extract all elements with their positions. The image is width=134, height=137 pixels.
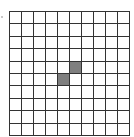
grid-cell	[10, 24, 22, 36]
grid-cell	[46, 62, 58, 74]
grid-cell	[58, 37, 70, 49]
shaded-grid-cell	[70, 62, 82, 74]
grid-cell	[106, 37, 118, 49]
grid-cell	[106, 86, 118, 98]
grid-cell	[34, 12, 46, 24]
grid-cell	[22, 74, 34, 86]
grid-cell	[70, 12, 82, 24]
grid-cell	[94, 99, 106, 111]
grid-cell	[94, 37, 106, 49]
grid-cell	[46, 99, 58, 111]
grid-cell	[70, 37, 82, 49]
grid-cell	[118, 99, 130, 111]
grid-cell	[94, 12, 106, 24]
grid-cell	[106, 74, 118, 86]
grid-cell	[22, 124, 34, 136]
grid-cell	[46, 111, 58, 123]
corner-mark	[1, 16, 3, 18]
grid-cell	[94, 24, 106, 36]
grid-cell	[58, 49, 70, 61]
grid-cell	[34, 99, 46, 111]
grid-cell	[82, 24, 94, 36]
square-grid	[9, 11, 130, 136]
grid-cell	[70, 74, 82, 86]
grid-cell	[58, 12, 70, 24]
grid-cell	[58, 86, 70, 98]
grid-cell	[22, 111, 34, 123]
grid-cell	[10, 74, 22, 86]
grid-cell	[34, 62, 46, 74]
grid-cell	[70, 49, 82, 61]
grid-cell	[70, 111, 82, 123]
grid-cell	[10, 37, 22, 49]
grid-cell	[82, 12, 94, 24]
grid-cell	[10, 124, 22, 136]
grid-cell	[58, 124, 70, 136]
grid-cell	[46, 86, 58, 98]
grid-cell	[34, 49, 46, 61]
grid-cell	[46, 12, 58, 24]
grid-cell	[94, 86, 106, 98]
grid-cell	[70, 24, 82, 36]
shaded-grid-cell	[58, 74, 70, 86]
grid-cell	[58, 111, 70, 123]
grid-cell	[22, 12, 34, 24]
grid-cell	[82, 49, 94, 61]
grid-cell	[118, 74, 130, 86]
grid-cell	[118, 86, 130, 98]
grid-cell	[118, 12, 130, 24]
grid-cell	[94, 74, 106, 86]
grid-cell	[106, 62, 118, 74]
grid-cell	[118, 124, 130, 136]
grid-cell	[10, 62, 22, 74]
grid-cell	[82, 111, 94, 123]
grid-cell	[70, 124, 82, 136]
grid-cell	[106, 49, 118, 61]
grid-cell	[46, 124, 58, 136]
grid-cell	[94, 111, 106, 123]
grid-cell	[118, 24, 130, 36]
grid-cell	[22, 37, 34, 49]
grid-cell	[94, 124, 106, 136]
grid-cell	[10, 12, 22, 24]
grid-cell	[22, 49, 34, 61]
grid-cell	[10, 99, 22, 111]
grid-cell	[34, 24, 46, 36]
grid-cell	[106, 24, 118, 36]
grid-cell	[82, 124, 94, 136]
grid-cell	[106, 12, 118, 24]
grid-cell	[58, 99, 70, 111]
grid-cell	[70, 86, 82, 98]
grid-cell	[82, 99, 94, 111]
grid-cell	[118, 37, 130, 49]
grid-cell	[34, 111, 46, 123]
grid-cell	[70, 99, 82, 111]
grid-cell	[82, 37, 94, 49]
grid-cell	[82, 62, 94, 74]
grid-cell	[10, 49, 22, 61]
grid-cell	[82, 74, 94, 86]
grid-cell	[46, 49, 58, 61]
grid-cell	[34, 74, 46, 86]
grid-cell	[118, 111, 130, 123]
grid-cell	[46, 74, 58, 86]
grid-cell	[58, 24, 70, 36]
grid-cell	[118, 49, 130, 61]
grid-cell	[34, 86, 46, 98]
grid-cell	[22, 62, 34, 74]
grid-cell	[10, 111, 22, 123]
grid-cell	[106, 99, 118, 111]
grid-cell	[46, 24, 58, 36]
grid-cell	[22, 99, 34, 111]
grid-cell	[46, 37, 58, 49]
grid-cell	[106, 124, 118, 136]
grid-cell	[58, 62, 70, 74]
grid-cell	[82, 86, 94, 98]
grid-cell	[34, 37, 46, 49]
grid-cell	[10, 86, 22, 98]
grid-cell	[34, 124, 46, 136]
grid-cell	[94, 62, 106, 74]
grid-cell	[118, 62, 130, 74]
grid-cell	[94, 49, 106, 61]
grid-cell	[22, 86, 34, 98]
